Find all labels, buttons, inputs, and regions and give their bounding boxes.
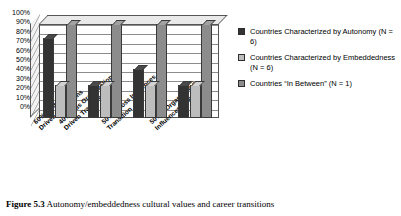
legend-label: Countries “In Between” (N = 1) bbox=[250, 79, 352, 89]
chart-top-wall bbox=[39, 15, 228, 24]
bar bbox=[55, 85, 66, 118]
y-axis-tick: 20% bbox=[16, 84, 30, 91]
bar bbox=[88, 85, 99, 118]
y-axis-tick: 30% bbox=[16, 75, 30, 82]
bar-group bbox=[174, 24, 219, 118]
bar bbox=[100, 85, 111, 118]
bar bbox=[43, 38, 54, 118]
y-axis-tick: 50% bbox=[16, 56, 30, 63]
y-axis-tick: 90% bbox=[16, 18, 30, 25]
legend-swatch bbox=[238, 28, 245, 35]
x-axis-labels: 60% + InternallyDriven Transitions40% Pl… bbox=[0, 118, 232, 188]
legend-item: Countries Characterized by Embeddedness … bbox=[238, 53, 398, 72]
legend-label: Countries Characterized by Autonomy (N =… bbox=[250, 27, 398, 46]
y-axis-tick: 80% bbox=[16, 28, 30, 35]
bar-chart: 100%90%80%70%60%50%40%30%20%10%0% 60% + … bbox=[0, 0, 232, 188]
legend-label: Countries Characterized by Embeddedness … bbox=[250, 53, 398, 72]
chart-left-wall bbox=[30, 15, 39, 118]
y-axis-tick: 100% bbox=[12, 9, 30, 16]
bar bbox=[201, 24, 212, 118]
bar bbox=[178, 85, 189, 118]
bar bbox=[145, 85, 156, 118]
caption-label: Figure 5.3 bbox=[6, 199, 45, 209]
chart-legend: Countries Characterized by Autonomy (N =… bbox=[238, 27, 398, 96]
legend-swatch bbox=[238, 80, 245, 87]
legend-item: Countries Characterized by Autonomy (N =… bbox=[238, 27, 398, 46]
legend-item: Countries “In Between” (N = 1) bbox=[238, 79, 398, 89]
y-axis-tick: 40% bbox=[16, 65, 30, 72]
y-axis-tick: 0% bbox=[20, 103, 30, 110]
figure-container: 100%90%80%70%60%50%40%30%20%10%0% 60% + … bbox=[0, 0, 401, 216]
bar bbox=[190, 85, 201, 118]
y-axis-tick: 70% bbox=[16, 37, 30, 44]
y-axis: 100%90%80%70%60%50%40%30%20%10%0% bbox=[2, 12, 30, 118]
bar bbox=[133, 69, 144, 118]
bar bbox=[156, 24, 167, 118]
y-axis-tick: 10% bbox=[16, 94, 30, 101]
bar bbox=[66, 24, 77, 118]
y-axis-tick: 60% bbox=[16, 47, 30, 54]
bar-top-face bbox=[44, 34, 58, 39]
bar-top-face bbox=[134, 65, 148, 70]
figure-caption: Figure 5.3 Autonomy/embeddedness cultura… bbox=[6, 199, 398, 210]
caption-text: Autonomy/embeddedness cultural values an… bbox=[47, 199, 275, 209]
legend-swatch bbox=[238, 54, 245, 61]
bar bbox=[111, 24, 122, 118]
